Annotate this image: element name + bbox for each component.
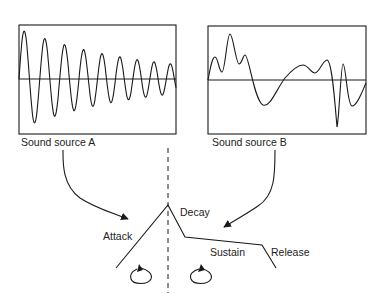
panel-sound-source-b: Sound source B: [208, 26, 366, 148]
arrow-b-to-decay: [224, 150, 275, 227]
attack-label: Attack: [103, 230, 133, 242]
loop-icon-left: [130, 264, 151, 284]
panel-b-label: Sound source B: [212, 136, 287, 148]
release-label: Release: [271, 246, 310, 258]
waveform-a: [19, 31, 176, 123]
diagram-canvas: Sound source A Sound source B Decay Atta…: [0, 0, 386, 302]
arrow-a-to-attack: [63, 150, 128, 219]
panel-a-label: Sound source A: [21, 136, 95, 148]
sustain-label: Sustain: [210, 246, 245, 258]
loop-icon-right: [190, 264, 211, 284]
decay-label: Decay: [180, 206, 211, 218]
panel-sound-source-a: Sound source A: [19, 25, 176, 148]
